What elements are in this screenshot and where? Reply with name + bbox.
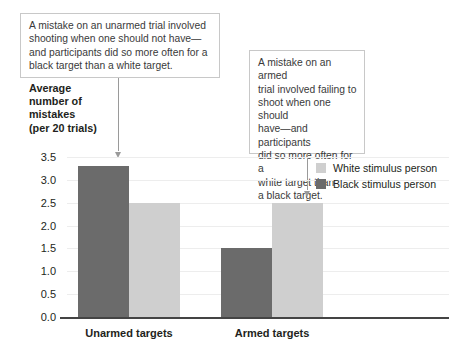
x-axis-category-label: Armed targets bbox=[222, 327, 322, 339]
chart-legend: White stimulus person Black stimulus per… bbox=[316, 160, 437, 192]
legend-label-black: Black stimulus person bbox=[333, 178, 436, 190]
bar-group-container bbox=[0, 0, 463, 318]
legend-swatch-black-icon bbox=[316, 179, 326, 189]
legend-item-black: Black stimulus person bbox=[316, 176, 437, 192]
bar-unarmed-targets-light bbox=[129, 203, 180, 317]
legend-swatch-white-icon bbox=[316, 163, 326, 173]
legend-label-white: White stimulus person bbox=[333, 162, 437, 174]
x-axis-category-label: Unarmed targets bbox=[76, 327, 182, 339]
bar-armed-targets-dark bbox=[221, 248, 272, 317]
bar-unarmed-targets-dark bbox=[78, 166, 129, 317]
bar-armed-targets-light bbox=[272, 203, 323, 317]
bar-chart-figure: A mistake on an unarmed trial involved s… bbox=[0, 0, 463, 355]
legend-item-white: White stimulus person bbox=[316, 160, 437, 176]
